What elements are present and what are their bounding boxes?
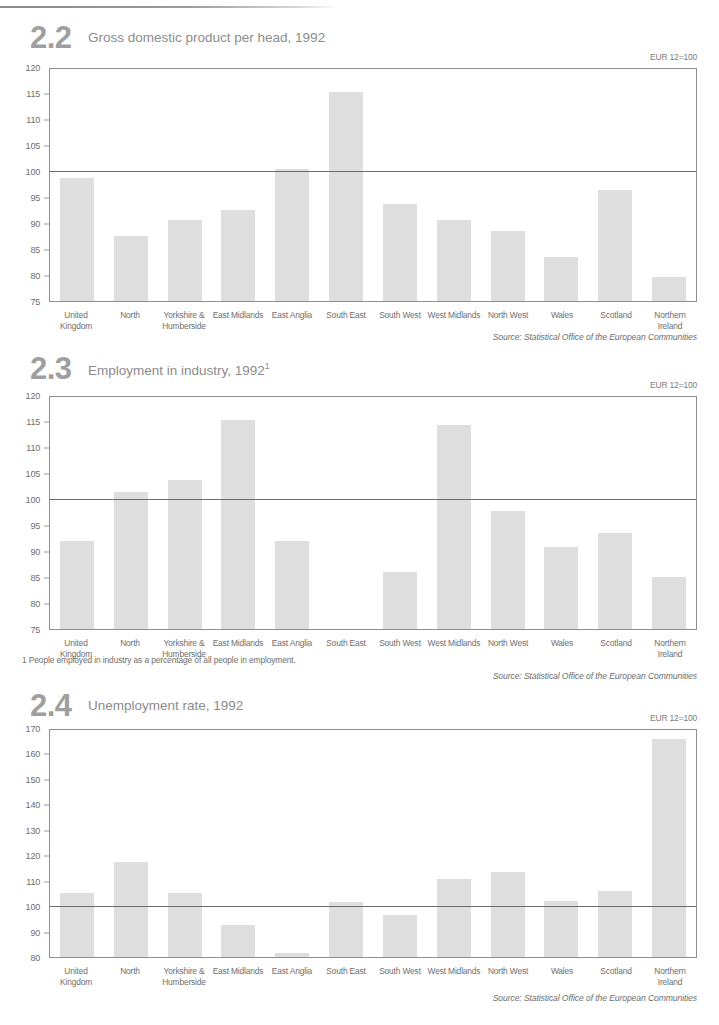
- bar[interactable]: [383, 572, 417, 629]
- bar[interactable]: [275, 169, 309, 301]
- bar[interactable]: [437, 879, 471, 957]
- bar-slot: [211, 730, 265, 957]
- x-axis-category-label: Wales: [535, 306, 589, 332]
- bar-slot: [50, 397, 104, 629]
- bar[interactable]: [168, 480, 202, 629]
- chart-source-note: Source: Statistical Office of the Europe…: [493, 993, 697, 1003]
- bar[interactable]: [544, 901, 578, 957]
- bar[interactable]: [60, 893, 94, 957]
- y-axis-tick-label: 115: [26, 417, 40, 427]
- bar-slot: [588, 730, 642, 957]
- bar[interactable]: [221, 210, 255, 301]
- x-axis-category-label: NorthernIreland: [643, 634, 697, 660]
- bar[interactable]: [60, 178, 94, 301]
- y-axis-labels: 7580859095100105110115120: [0, 396, 44, 630]
- x-axis-category-label: North: [103, 962, 157, 988]
- x-axis-labels: UnitedKingdomNorthYorkshire &HumbersideE…: [49, 306, 697, 332]
- bar-slot: [534, 397, 588, 629]
- chart-number: 2.3: [30, 353, 72, 384]
- bar-slot: [319, 69, 373, 301]
- bar[interactable]: [491, 872, 525, 957]
- bar-slot: [373, 69, 427, 301]
- bar-slot: [265, 730, 319, 957]
- bar-slot: [158, 397, 212, 629]
- bar-slot: [50, 730, 104, 957]
- x-axis-category-label: East Midlands: [211, 962, 265, 988]
- bar-slot: [373, 730, 427, 957]
- y-axis-tick-label: 105: [26, 141, 40, 151]
- y-axis-tick-label: 110: [26, 443, 40, 453]
- bar[interactable]: [114, 236, 148, 301]
- bar[interactable]: [598, 190, 632, 301]
- x-axis-category-label: South East: [319, 962, 373, 988]
- bar[interactable]: [383, 915, 417, 957]
- chart-title: Employment in industry, 19921: [88, 361, 270, 378]
- bar[interactable]: [168, 220, 202, 301]
- x-axis-category-label: Wales: [535, 962, 589, 988]
- x-axis-category-label: South West: [373, 962, 427, 988]
- bar-slot: [319, 397, 373, 629]
- x-axis-category-label: UnitedKingdom: [49, 962, 103, 988]
- bar-slot: [534, 69, 588, 301]
- bar[interactable]: [329, 92, 363, 301]
- x-axis-category-label: East Anglia: [265, 962, 319, 988]
- y-axis-tick-label: 95: [30, 193, 40, 203]
- bar[interactable]: [544, 547, 578, 629]
- bar[interactable]: [114, 862, 148, 957]
- index-basis-note: EUR 12=100: [650, 52, 697, 62]
- index-basis-note: EUR 12=100: [650, 713, 697, 723]
- bar[interactable]: [275, 953, 309, 957]
- bar[interactable]: [652, 577, 686, 629]
- x-axis-labels: UnitedKingdomNorthYorkshire &HumbersideE…: [49, 962, 697, 988]
- y-axis-tick-label: 120: [26, 851, 40, 861]
- bar-slot: [427, 397, 481, 629]
- bar-slot: [373, 397, 427, 629]
- bar[interactable]: [437, 220, 471, 301]
- bar[interactable]: [491, 231, 525, 301]
- bar[interactable]: [221, 420, 255, 629]
- y-axis-tick-label: 120: [26, 391, 40, 401]
- bar[interactable]: [221, 925, 255, 957]
- x-axis-category-label: Scotland: [589, 962, 643, 988]
- bar-slot: [642, 730, 696, 957]
- bar[interactable]: [275, 541, 309, 629]
- bar[interactable]: [544, 257, 578, 301]
- x-axis-category-label: Yorkshire &Humberside: [157, 962, 211, 988]
- bar-slot: [50, 69, 104, 301]
- x-axis-category-label: North: [103, 306, 157, 332]
- x-axis-category-label: North West: [481, 634, 535, 660]
- x-axis-category-label: West Midlands: [427, 634, 481, 660]
- x-axis-category-label: South West: [373, 634, 427, 660]
- chart-block-2-2: 2.2Gross domestic product per head, 1992…: [0, 24, 719, 354]
- bar[interactable]: [114, 492, 148, 629]
- bar-slot: [481, 730, 535, 957]
- bar[interactable]: [437, 425, 471, 629]
- bar[interactable]: [652, 277, 686, 301]
- y-axis-tick-label: 80: [30, 271, 40, 281]
- x-axis-category-label: South East: [319, 634, 373, 660]
- bar-slot: [211, 69, 265, 301]
- bar[interactable]: [652, 739, 686, 957]
- statistical-report-page: 2.2Gross domestic product per head, 1992…: [0, 0, 719, 1025]
- bar-slot: [158, 730, 212, 957]
- plot-wrapper: 7580859095100105110115120: [0, 396, 719, 630]
- bar[interactable]: [491, 511, 525, 629]
- bar[interactable]: [383, 204, 417, 301]
- x-axis-category-label: North West: [481, 306, 535, 332]
- x-axis-category-label: NorthernIreland: [643, 962, 697, 988]
- x-axis-category-label: South East: [319, 306, 373, 332]
- y-axis-tick-label: 100: [26, 167, 40, 177]
- y-axis-tick-label: 170: [26, 724, 40, 734]
- y-axis-tick-label: 120: [26, 63, 40, 73]
- y-axis-tick-label: 140: [26, 800, 40, 810]
- bar[interactable]: [60, 541, 94, 629]
- y-axis-labels: 7580859095100105110115120: [0, 68, 44, 302]
- bar[interactable]: [168, 893, 202, 957]
- bar-slot: [104, 730, 158, 957]
- x-axis-category-label: Yorkshire &Humberside: [157, 306, 211, 332]
- bar-slot: [534, 730, 588, 957]
- bar[interactable]: [598, 533, 632, 629]
- bar[interactable]: [329, 902, 363, 957]
- bar[interactable]: [598, 891, 632, 957]
- y-axis-tick-label: 90: [30, 928, 40, 938]
